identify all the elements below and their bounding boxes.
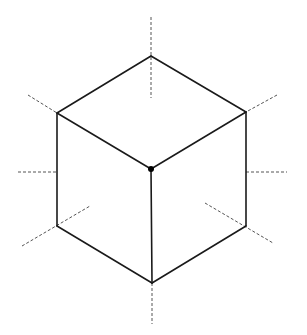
cube-edge	[152, 226, 246, 283]
cube-edge	[151, 112, 246, 169]
cube-edge	[57, 113, 151, 169]
center-vertex-dot	[148, 166, 154, 172]
cube-edge	[57, 226, 152, 283]
cube-edge	[151, 169, 152, 283]
dashed-line	[205, 203, 273, 243]
cube-edge	[151, 56, 246, 112]
dashed-line	[28, 95, 57, 113]
isometric-cube-diagram	[0, 0, 307, 335]
dashed-line	[246, 95, 277, 112]
cube-canvas	[0, 0, 307, 335]
cube-edge	[57, 56, 151, 113]
